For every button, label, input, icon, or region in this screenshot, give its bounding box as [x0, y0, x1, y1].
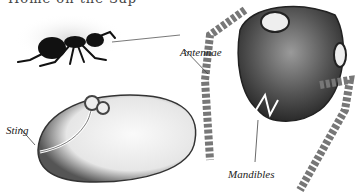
ant-head: [185, 7, 350, 190]
label-antennae: Antennae: [180, 46, 222, 58]
abdomen-cross-section: [20, 95, 196, 182]
label-mandibles: Mandibles: [228, 168, 274, 180]
label-sting: Sting: [6, 124, 29, 136]
ant-silhouette: [15, 14, 180, 66]
ant-anatomy-illustration: [0, 0, 358, 192]
